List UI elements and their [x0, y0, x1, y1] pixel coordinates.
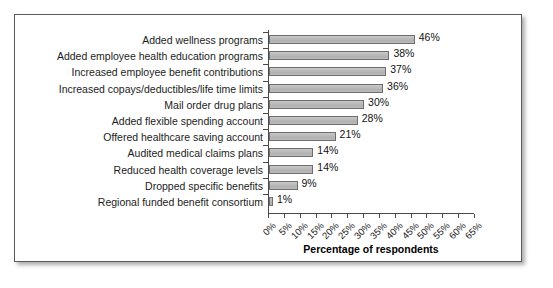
bar-row: Added flexible spending account28% [15, 113, 523, 129]
bar-fill [269, 35, 415, 44]
bar-value-label: 14% [317, 143, 338, 157]
bar-fill [269, 84, 383, 93]
x-axis-tick-mark [411, 214, 412, 218]
category-label: Mail order drug plans [164, 97, 263, 113]
bar-fill [269, 181, 298, 190]
category-tick-mark [263, 162, 268, 163]
category-label: Audited medical claims plans [128, 145, 263, 161]
x-axis-tick-mark [379, 214, 380, 218]
x-axis-tick-mark [300, 214, 301, 218]
category-tick-mark [263, 32, 268, 33]
bar-row: Mail order drug plans30% [15, 97, 523, 113]
category-tick-mark [263, 97, 268, 98]
x-axis-tick-mark [268, 214, 269, 218]
bar-fill [269, 67, 386, 76]
x-axis-tick-mark [458, 214, 459, 218]
bar-value-label: 9% [302, 176, 317, 190]
category-label: Added wellness programs [142, 32, 263, 48]
chart-frame: Added wellness programs46%Added employee… [14, 14, 522, 262]
category-tick-mark [263, 178, 268, 179]
x-axis-tick-mark [284, 214, 285, 218]
bar-row: Audited medical claims plans14% [15, 145, 523, 161]
category-label: Increased copays/deductibles/life time l… [59, 81, 263, 97]
bar-value-label: 21% [340, 127, 361, 141]
x-axis-tick-mark [474, 214, 475, 218]
category-label: Added flexible spending account [112, 113, 263, 129]
bar-value-label: 38% [393, 46, 414, 60]
x-axis-tick-mark [426, 214, 427, 218]
bar-row: Reduced health coverage levels14% [15, 162, 523, 178]
category-label: Reduced health coverage levels [114, 162, 263, 178]
bar-row: Offered healthcare saving account21% [15, 129, 523, 145]
bar-fill [269, 100, 364, 109]
bar-value-label: 1% [277, 192, 292, 206]
bar-row: Dropped specific benefits9% [15, 178, 523, 194]
bar-fill [269, 51, 389, 60]
bar-value-label: 36% [387, 79, 408, 93]
bar [269, 51, 389, 61]
bar-fill [269, 165, 313, 174]
category-tick-mark [263, 81, 268, 82]
category-label: Dropped specific benefits [145, 178, 263, 194]
category-label: Increased employee benefit contributions [72, 64, 263, 80]
bar-value-label: 37% [390, 62, 411, 76]
bar [269, 181, 298, 191]
x-axis-tick-mark [395, 214, 396, 218]
bar-row: Regional funded benefit consortium1% [15, 194, 523, 210]
x-axis-tick-mark [331, 214, 332, 218]
bar-fill [269, 197, 273, 206]
bar [269, 197, 273, 207]
bar [269, 100, 364, 110]
bar [269, 165, 313, 175]
bar [269, 116, 358, 126]
bar-fill [269, 148, 313, 157]
x-axis-tick-mark [442, 214, 443, 218]
bar [269, 67, 386, 77]
bar-value-label: 28% [362, 111, 383, 125]
category-tick-mark [263, 48, 268, 49]
category-tick-mark [263, 145, 268, 146]
x-axis-tick-mark [316, 214, 317, 218]
bar [269, 132, 336, 142]
category-label: Added employee health education programs [57, 48, 263, 64]
x-axis-tick-mark [347, 214, 348, 218]
bar-row: Increased copays/deductibles/life time l… [15, 81, 523, 97]
category-tick-mark [263, 194, 268, 195]
bar-value-label: 14% [317, 160, 338, 174]
category-tick-mark [263, 64, 268, 65]
bar-fill [269, 132, 336, 141]
category-label: Offered healthcare saving account [103, 129, 263, 145]
x-axis-title: Percentage of respondents [268, 243, 474, 255]
x-axis-tick-mark [363, 214, 364, 218]
bar-value-label: 30% [368, 95, 389, 109]
bar-row: Added employee health education programs… [15, 48, 523, 64]
bar [269, 84, 383, 94]
bar [269, 148, 313, 158]
category-label: Regional funded benefit consortium [98, 194, 263, 210]
bar-fill [269, 116, 358, 125]
bar [269, 35, 415, 45]
bar-value-label: 46% [419, 30, 440, 44]
category-tick-mark [263, 113, 268, 114]
category-tick-mark [263, 129, 268, 130]
bar-row: Added wellness programs46% [15, 32, 523, 48]
bar-chart-plot-area: Added wellness programs46%Added employee… [15, 15, 523, 263]
bar-row: Increased employee benefit contributions… [15, 64, 523, 80]
